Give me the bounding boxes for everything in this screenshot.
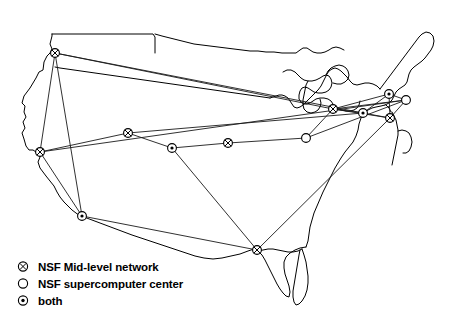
legend-label-mid-level: NSF Mid-level network	[34, 261, 159, 273]
network-node-supercomputer[interactable]	[402, 96, 411, 105]
network-node-both[interactable]	[78, 212, 87, 221]
legend-item-mid-level: NSF Mid-level network	[14, 258, 264, 275]
node-dot-mark	[361, 111, 364, 114]
network-node-supercomputer[interactable]	[302, 134, 311, 143]
network-link	[82, 216, 257, 250]
legend-label-supercomputer: NSF supercomputer center	[34, 278, 183, 290]
network-node-both[interactable]	[359, 109, 368, 118]
network-node-mid-level[interactable]	[329, 105, 338, 114]
network-map-figure: NSF Mid-level network NSF supercomputer …	[0, 0, 471, 314]
network-link	[40, 152, 82, 216]
node-dot-mark	[387, 92, 390, 95]
node-outline	[402, 96, 411, 105]
network-link	[257, 118, 390, 250]
map-legend: NSF Mid-level network NSF supercomputer …	[14, 258, 264, 309]
node-outline	[302, 134, 311, 143]
legend-item-both: both	[14, 292, 264, 309]
gulf-coast-detail	[258, 249, 308, 305]
network-link	[55, 53, 363, 113]
circled-x-icon	[14, 258, 34, 275]
network-node-mid-level[interactable]	[386, 114, 395, 123]
network-link	[40, 133, 128, 152]
network-node-mid-level[interactable]	[253, 246, 262, 255]
circled-dot-icon	[14, 292, 34, 309]
network-link	[128, 133, 172, 148]
network-link	[40, 53, 55, 152]
network-link	[228, 138, 306, 143]
network-link	[172, 148, 257, 250]
node-dot-mark	[170, 146, 173, 149]
network-node-mid-level[interactable]	[51, 49, 60, 58]
legend-label-both: both	[34, 295, 63, 307]
node-dot-mark	[80, 214, 83, 217]
network-node-both[interactable]	[385, 90, 394, 99]
legend-item-supercomputer: NSF supercomputer center	[14, 275, 264, 292]
network-node-mid-level[interactable]	[36, 148, 45, 157]
network-link	[55, 53, 82, 216]
network-link	[172, 143, 228, 148]
network-nodes	[36, 49, 411, 255]
network-node-mid-level[interactable]	[124, 129, 133, 138]
open-circle-icon	[14, 275, 34, 292]
network-node-mid-level[interactable]	[224, 139, 233, 148]
network-node-both[interactable]	[168, 144, 177, 153]
great-lakes	[283, 65, 360, 113]
